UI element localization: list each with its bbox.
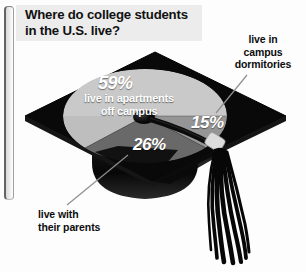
pie-sublabel-apartments: live in apartments off campus	[54, 92, 204, 117]
infographic-figure: Where do college students in the U.S. li…	[0, 0, 306, 272]
pie-value-apartments: 59%	[98, 73, 133, 94]
callout-label-parents: live with their parents	[38, 208, 148, 233]
pie-value-dormitories: 15%	[191, 113, 224, 133]
pie-value-parents: 26%	[133, 135, 166, 155]
callout-label-dormitories: live in campus dormitories	[222, 33, 304, 71]
tassel-icon	[208, 150, 249, 263]
